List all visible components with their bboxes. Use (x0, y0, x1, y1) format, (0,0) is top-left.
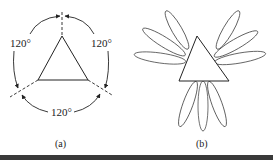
bottom-border-bar (0, 155, 273, 160)
panel-b: (b) (134, 8, 267, 150)
arc-upper-left (30, 16, 60, 34)
petal (175, 80, 201, 129)
caption-a: (a) (55, 138, 66, 150)
arc-upper-right (65, 16, 94, 34)
arc-bottom-right (74, 94, 100, 112)
petal (213, 8, 244, 51)
angle-label-left: 120° (10, 37, 31, 49)
petal (198, 81, 208, 131)
angle-label-bottom: 120° (51, 106, 72, 118)
angle-label-right: 120° (91, 37, 112, 49)
panel-a: 120° 120° 120° (a) (10, 12, 112, 150)
petal (214, 49, 267, 68)
figure: 120° 120° 120° (a) (b) (0, 0, 273, 160)
triangle-b (179, 36, 229, 81)
caption-b: (b) (196, 138, 208, 150)
arc-left (14, 51, 19, 88)
axis-lower-left (10, 80, 38, 97)
axis-lower-right (88, 80, 112, 95)
petal (140, 25, 188, 60)
arc-right (105, 51, 109, 88)
petal (212, 27, 260, 61)
petal (134, 49, 187, 66)
triangle-a (38, 36, 88, 80)
arc-bottom-left (22, 95, 48, 112)
